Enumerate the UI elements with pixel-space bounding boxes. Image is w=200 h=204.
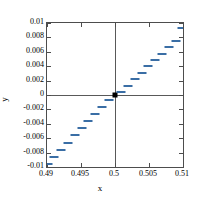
y-axis-tick <box>47 138 51 139</box>
y-axis-tick-right <box>179 109 183 110</box>
y-axis-tick-right <box>179 124 183 125</box>
y-axis-tick <box>47 81 51 82</box>
y-axis-tick <box>47 52 51 53</box>
x-axis-tick <box>183 163 184 167</box>
y-axis-tick-label: -0.008 <box>23 148 44 156</box>
x-axis-tick-top <box>183 23 184 27</box>
y-axis-tick-label: 0.004 <box>26 61 44 69</box>
data-point-marker <box>130 78 139 80</box>
data-point-marker <box>177 27 184 29</box>
x-axis-tick-label: 0.49 <box>39 170 53 178</box>
data-point-marker <box>144 65 153 67</box>
y-axis-tick-right <box>179 95 183 96</box>
x-axis-tick-top <box>149 23 150 27</box>
data-point-marker <box>46 163 52 165</box>
data-point-marker <box>98 106 107 108</box>
x-axis-tick <box>149 163 150 167</box>
figure-canvas: y x 0.010.0080.0060.0040.0020-0.002-0.00… <box>0 0 200 204</box>
plot-area <box>46 22 184 168</box>
data-point-marker <box>123 85 132 87</box>
y-axis-tick-right <box>179 37 183 38</box>
x-axis-tick-top <box>47 23 48 27</box>
y-axis-tick-label: 0.002 <box>26 76 44 84</box>
y-axis-tick-right <box>179 167 183 168</box>
y-axis-tick-label: 0.006 <box>26 47 44 55</box>
y-axis-tick <box>47 153 51 154</box>
data-point-marker <box>57 149 66 151</box>
y-axis-title: y <box>0 97 9 102</box>
data-point-marker <box>70 134 79 136</box>
x-axis-tick-top <box>115 23 116 27</box>
y-axis-tick-right <box>179 138 183 139</box>
data-point-marker <box>164 46 173 48</box>
x-axis-title: x <box>0 184 200 193</box>
data-point-marker <box>84 120 93 122</box>
data-point-marker <box>171 40 180 42</box>
data-point-marker <box>64 142 73 144</box>
y-axis-tick-label: -0.006 <box>23 133 44 141</box>
data-point-marker <box>151 59 160 61</box>
y-axis-tick <box>47 109 51 110</box>
data-point-marker <box>104 99 113 101</box>
y-axis-tick-label: 0 <box>40 90 44 98</box>
data-point-marker <box>91 113 100 115</box>
data-point-marker <box>137 72 146 74</box>
x-axis-tick-top <box>81 23 82 27</box>
y-axis-tick-label: -0.004 <box>23 119 44 127</box>
origin-data-point <box>113 93 118 98</box>
x-axis-tick-label: 0.505 <box>139 170 157 178</box>
y-axis-tick-right <box>179 81 183 82</box>
y-axis-tick-label: 0.01 <box>30 18 44 26</box>
x-axis-tick <box>81 163 82 167</box>
x-axis-tick-label: 0.51 <box>175 170 189 178</box>
y-axis-tick-right <box>179 52 183 53</box>
data-point-marker <box>50 156 59 158</box>
y-axis-tick <box>47 95 51 96</box>
y-axis-tick <box>47 167 51 168</box>
y-axis-tick <box>47 37 51 38</box>
x-axis-tick <box>115 163 116 167</box>
y-axis-tick <box>47 124 51 125</box>
y-axis-tick-right <box>179 66 183 67</box>
y-axis-tick-label: 0.008 <box>26 32 44 40</box>
data-point-marker <box>117 91 126 93</box>
y-axis-tick-right <box>179 153 183 154</box>
x-axis-tick-label: 0.5 <box>109 170 119 178</box>
data-point-marker <box>157 53 166 55</box>
y-axis-tick-label: -0.002 <box>23 104 44 112</box>
x-axis-tick-label: 0.495 <box>71 170 89 178</box>
data-point-marker <box>77 127 86 129</box>
y-axis-tick <box>47 66 51 67</box>
